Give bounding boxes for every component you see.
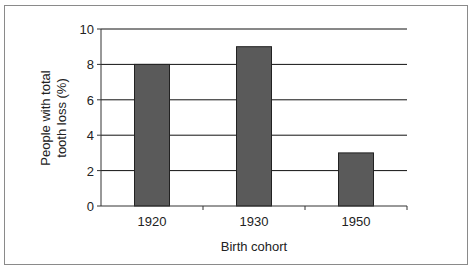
bar-1920 [135, 64, 170, 206]
bar-1950 [339, 153, 374, 206]
bar-1930 [237, 47, 272, 206]
bar-chart: 0246810 192019301950 People with total t… [0, 0, 473, 273]
y-tick-label: 2 [87, 164, 94, 179]
y-axis-title-line-2: tooth loss (%) [54, 78, 69, 157]
y-axis-title: People with total tooth loss (%) [38, 70, 69, 166]
x-tick-labels: 192019301950 [138, 214, 371, 229]
y-tick-label: 8 [87, 57, 94, 72]
y-tick-labels: 0246810 [80, 22, 94, 214]
y-axis-title-line-1: People with total [38, 70, 53, 166]
x-tick-label: 1920 [138, 214, 167, 229]
x-axis-title: Birth cohort [221, 239, 288, 254]
y-tick-label: 10 [80, 22, 94, 37]
y-tick-label: 6 [87, 93, 94, 108]
x-tick-label: 1930 [240, 214, 269, 229]
bars [135, 47, 374, 206]
x-tick-label: 1950 [342, 214, 371, 229]
y-tick-label: 0 [87, 199, 94, 214]
y-tick-label: 4 [87, 128, 94, 143]
